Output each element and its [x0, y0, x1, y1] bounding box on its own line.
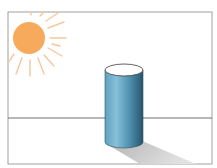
- scene-illustration: [0, 0, 217, 168]
- cylinder: [105, 64, 143, 148]
- cylinder-top: [105, 64, 143, 76]
- sun: [13, 22, 45, 54]
